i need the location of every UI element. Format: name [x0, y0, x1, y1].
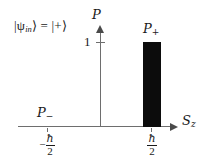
two-denominator-left: 2	[46, 145, 55, 158]
y-axis-line	[100, 30, 101, 127]
input-state-subscript: in	[25, 24, 32, 34]
p-minus-symbol: P	[37, 105, 46, 120]
x-axis-label-symbol: S	[182, 113, 191, 128]
hbar-numerator-left: ħ	[46, 133, 55, 145]
bar-label-p-plus: P+	[143, 22, 159, 37]
y-tick-one	[96, 42, 105, 43]
bar-positive-outcome	[143, 42, 161, 127]
x-tick-label-negative-hbar-half: −ħ2	[30, 133, 64, 157]
input-state-annotation: |ψin⟩ = |+⟩	[14, 19, 67, 33]
p-minus-subscript: −	[46, 111, 54, 121]
hbar-numerator-right: ħ	[147, 133, 156, 145]
input-state-suffix: ⟩ = |+⟩	[32, 18, 67, 33]
probability-bar-chart-figure: |ψin⟩ = |+⟩ P 1 P+ P− −ħ2 ħ2 Sz	[0, 0, 209, 163]
y-axis-arrowhead-icon	[96, 25, 104, 33]
bar-label-p-minus: P−	[37, 106, 53, 121]
x-axis-arrowhead-icon	[170, 123, 178, 131]
x-axis-label: Sz	[182, 114, 196, 129]
p-plus-symbol: P	[143, 21, 152, 36]
two-denominator-right: 2	[147, 145, 156, 158]
x-tick-label-positive-hbar-half: ħ2	[138, 133, 166, 157]
y-axis-label: P	[92, 8, 101, 21]
x-axis-label-subscript: z	[191, 119, 196, 129]
y-tick-label-one: 1	[84, 35, 91, 48]
input-state-prefix: |ψ	[14, 18, 25, 33]
p-plus-subscript: +	[152, 27, 160, 37]
